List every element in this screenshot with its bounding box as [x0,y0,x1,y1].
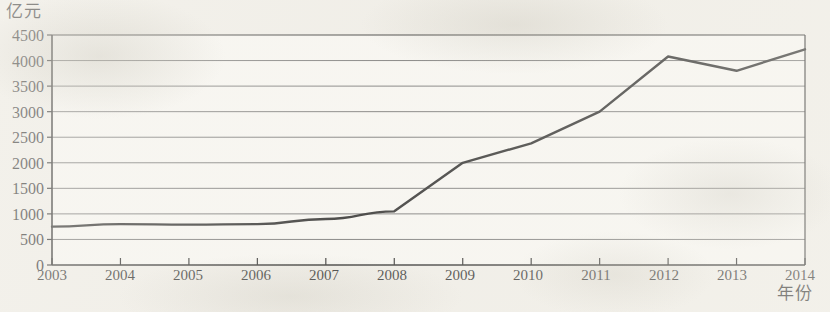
plot-background [52,35,805,265]
plot-area [0,0,830,312]
line-chart: 亿元 年份 4500 4000 3500 3000 2500 2000 1500… [0,0,830,312]
